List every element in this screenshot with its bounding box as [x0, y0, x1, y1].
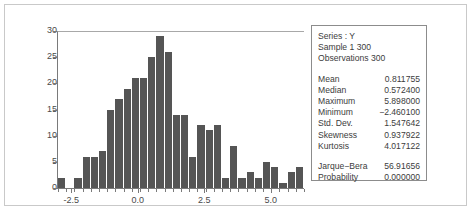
stat-row: Median0.572400 — [318, 85, 420, 96]
x-tick-mark — [189, 189, 190, 192]
x-tick-mark — [91, 189, 92, 192]
stat-value: 0.572400 — [384, 85, 420, 96]
histogram-bar — [279, 183, 287, 188]
histogram-bar — [189, 157, 197, 188]
histogram-bar — [165, 52, 173, 188]
statistics-panel: Series : Y Sample 1 300 Observations 300… — [311, 25, 427, 181]
x-tick-mark — [304, 189, 305, 192]
histogram-bar — [124, 89, 132, 188]
histogram-bar — [173, 115, 181, 188]
stat-value: 0.000000 — [384, 172, 420, 183]
stat-row: Probability0.000000 — [318, 172, 420, 183]
stat-key: Skewness — [318, 130, 357, 141]
normality-test-list: Jarque−Bera56.91656Probability0.000000 — [318, 161, 420, 183]
y-axis: 051015202530 — [15, 15, 57, 205]
stat-value: 1.547642 — [384, 118, 420, 129]
x-tick-mark — [107, 189, 108, 192]
x-tick-mark — [74, 189, 75, 192]
histogram-bar — [263, 162, 271, 188]
x-tick-label: -2.5 — [64, 195, 80, 205]
x-tick-mark — [214, 189, 215, 192]
stat-value: 0.811755 — [385, 74, 420, 85]
outer-frame: 051015202530 -2.50.02.55.0 Series : Y Sa… — [4, 4, 467, 206]
x-tick-mark — [83, 189, 84, 192]
histogram-bar — [222, 178, 230, 188]
x-tick-mark — [66, 189, 67, 192]
x-tick-mark — [288, 189, 289, 192]
x-axis: -2.50.02.55.0 — [57, 189, 305, 210]
histogram-bar — [255, 178, 263, 188]
stat-value: 0.937922 — [384, 130, 420, 141]
stat-key: Median — [318, 85, 346, 96]
histogram-stats-screenshot: 051015202530 -2.50.02.55.0 Series : Y Sa… — [0, 0, 471, 210]
x-tick-mark-major — [138, 189, 139, 193]
stats-spacer-2 — [318, 152, 420, 161]
stat-row: Minimum−2.460100 — [318, 107, 420, 118]
histogram-bar — [288, 172, 296, 188]
histogram-bar — [197, 125, 205, 188]
x-tick-mark — [230, 189, 231, 192]
x-tick-mark — [124, 189, 125, 192]
histogram-bar — [230, 146, 238, 188]
histogram-bar — [206, 130, 214, 188]
histogram-bar — [91, 157, 99, 188]
histogram-bar — [74, 178, 82, 188]
x-tick-mark — [197, 189, 198, 192]
stat-row: Maximum5.898000 — [318, 96, 420, 107]
stat-key: Mean — [318, 74, 340, 85]
stat-key: Probability — [318, 172, 358, 183]
x-tick-mark — [140, 189, 141, 192]
histogram-bar — [238, 178, 246, 188]
x-tick-mark — [181, 189, 182, 192]
x-tick-mark — [156, 189, 157, 192]
histogram-bar — [140, 78, 148, 188]
histogram-bars — [58, 31, 304, 188]
histogram-bar — [296, 167, 304, 188]
x-tick-mark — [263, 189, 264, 192]
x-tick-mark — [132, 189, 133, 192]
x-tick-label: 2.5 — [198, 195, 211, 205]
stat-row: Skewness0.937922 — [318, 130, 420, 141]
x-tick-mark — [165, 189, 166, 192]
histogram-bar — [107, 110, 115, 189]
histogram-bar — [132, 78, 140, 188]
x-tick-mark — [173, 189, 174, 192]
x-tick-mark-major — [71, 189, 72, 193]
stat-row: Kurtosis4.017122 — [318, 141, 420, 152]
stats-spacer-1 — [318, 65, 420, 74]
x-tick-mark — [238, 189, 239, 192]
series-name-line: Series : Y — [318, 31, 420, 42]
stat-value: 56.91656 — [384, 161, 420, 172]
histogram-bar — [156, 36, 164, 188]
stat-key: Maximum — [318, 96, 355, 107]
x-tick-mark — [115, 189, 116, 192]
stat-row: Std. Dev.1.547642 — [318, 118, 420, 129]
x-tick-label: 5.0 — [264, 195, 277, 205]
stat-value: 5.898000 — [384, 96, 420, 107]
stat-value: 4.017122 — [384, 141, 420, 152]
observations-line: Observations 300 — [318, 53, 420, 64]
stat-key: Kurtosis — [318, 141, 349, 152]
histogram-bar — [148, 57, 156, 188]
histogram-bar — [271, 167, 279, 188]
stat-key: Minimum — [318, 107, 353, 118]
x-tick-mark — [99, 189, 100, 192]
stat-key: Jarque−Bera — [318, 161, 367, 172]
descriptive-stats-list: Mean0.811755Median0.572400Maximum5.89800… — [318, 74, 420, 152]
histogram-chart-panel: 051015202530 -2.50.02.55.0 — [15, 15, 300, 205]
x-tick-mark — [206, 189, 207, 192]
histogram-bar — [58, 178, 66, 188]
histogram-bar — [115, 99, 123, 188]
x-tick-mark-major — [271, 189, 272, 193]
histogram-bar — [83, 157, 91, 188]
stat-value: −2.460100 — [379, 107, 420, 118]
x-tick-mark — [279, 189, 280, 192]
x-tick-mark — [247, 189, 248, 192]
stat-row: Jarque−Bera56.91656 — [318, 161, 420, 172]
histogram-bar — [247, 172, 255, 188]
x-tick-mark — [58, 189, 59, 192]
x-tick-mark — [255, 189, 256, 192]
x-tick-mark-major — [204, 189, 205, 193]
x-tick-mark — [148, 189, 149, 192]
stat-key: Std. Dev. — [318, 118, 353, 129]
